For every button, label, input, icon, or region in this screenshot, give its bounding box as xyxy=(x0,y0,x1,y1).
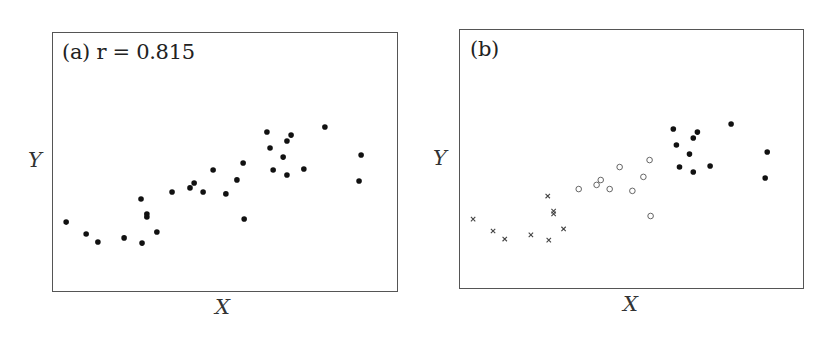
data-point-x xyxy=(503,237,507,241)
data-point-open xyxy=(607,186,613,192)
data-point-open xyxy=(594,182,600,188)
data-point-x xyxy=(546,194,550,198)
scatter-plot-b xyxy=(0,0,829,339)
data-point-open xyxy=(641,174,647,180)
data-point-open xyxy=(647,157,653,163)
data-point-open xyxy=(648,213,654,219)
data-point-filled xyxy=(762,175,768,181)
data-point-open xyxy=(617,164,623,170)
data-point-filled xyxy=(690,169,696,175)
data-point-filled xyxy=(764,149,770,155)
data-point-filled xyxy=(690,135,696,141)
data-point-filled xyxy=(671,126,677,132)
data-point-filled xyxy=(687,151,693,157)
data-point-x xyxy=(471,217,475,221)
data-point-open xyxy=(630,188,636,194)
data-point-x xyxy=(491,229,495,233)
data-point-filled xyxy=(677,164,683,170)
data-point-filled xyxy=(728,121,734,127)
data-point-x xyxy=(551,212,555,216)
data-point-filled xyxy=(707,163,713,169)
data-point-filled xyxy=(674,142,680,148)
data-point-x xyxy=(547,238,551,242)
data-point-filled xyxy=(695,129,701,135)
data-point-x xyxy=(561,227,565,231)
data-point-open xyxy=(576,186,582,192)
data-point-x xyxy=(529,233,533,237)
data-point-open xyxy=(598,177,604,183)
